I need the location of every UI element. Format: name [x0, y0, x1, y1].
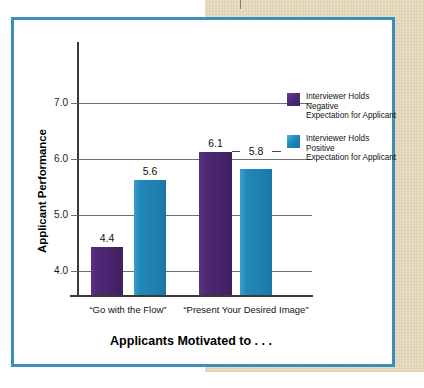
- legend-swatch-positive-icon: [287, 135, 300, 148]
- bar-chart-plot: 7.0 6.0 5.0 4.0 Applicant Performance 4.…: [0, 0, 424, 388]
- bar-value-group0-positive: 5.6: [134, 165, 166, 177]
- bar-value-group1-positive: 5.8: [240, 145, 272, 157]
- y-tick-7-0: [71, 103, 78, 104]
- bar-group1-positive: [240, 169, 272, 295]
- bar-group0-negative: [91, 247, 123, 295]
- bar-group1-negative: [199, 152, 232, 295]
- y-axis-line: [77, 42, 79, 296]
- legend-item-positive: Interviewer Holds Positive Expectation f…: [287, 134, 399, 163]
- page-background: 7.0 6.0 5.0 4.0 Applicant Performance 4.…: [0, 0, 424, 388]
- legend-label-negative: Interviewer Holds Negative Expectation f…: [306, 92, 399, 121]
- legend-item-negative: Interviewer Holds Negative Expectation f…: [287, 92, 399, 121]
- y-tick-6-0: [71, 159, 78, 160]
- y-axis-title: Applicant Performance: [36, 111, 48, 271]
- gridline-5-0: [78, 215, 312, 216]
- leader-dash-left: [232, 151, 240, 152]
- legend-label-positive: Interviewer Holds Positive Expectation f…: [306, 134, 399, 163]
- legend-swatch-negative-icon: [287, 93, 300, 106]
- x-axis-line: [70, 295, 313, 297]
- x-axis-title: Applicants Motivated to . . .: [60, 334, 322, 348]
- bar-value-group1-negative: 6.1: [199, 137, 232, 149]
- y-tick-4-0: [71, 271, 78, 272]
- gridline-6-0: [78, 159, 312, 160]
- leader-dash-right: [272, 151, 281, 152]
- bar-value-group0-negative: 4.4: [91, 232, 123, 244]
- x-category-label-1: “Present Your Desired Image”: [176, 304, 316, 315]
- x-category-label-0: “Go with the Flow”: [73, 304, 183, 315]
- bar-group0-positive: [134, 180, 166, 295]
- y-tick-5-0: [71, 215, 78, 216]
- y-tick-label-7-0: 7.0: [40, 97, 68, 108]
- gridline-7-0: [78, 103, 312, 104]
